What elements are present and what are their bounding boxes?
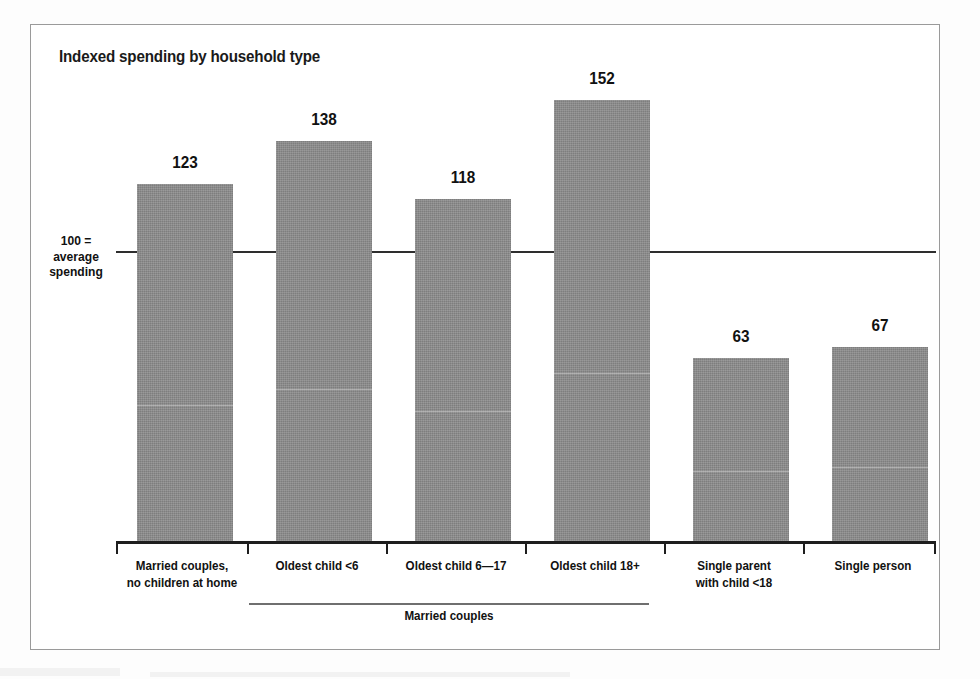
bar-value-label: 152 (559, 69, 645, 89)
bar-value-label: 138 (281, 110, 367, 130)
bar-oldest-child-18-plus (554, 100, 650, 541)
bar-married-no-children (137, 184, 233, 541)
category-label-line-1: Single parent (671, 558, 797, 575)
axis-tick (803, 541, 805, 554)
x-axis-category-label: Oldest child 18+ (532, 558, 658, 575)
scan-artifact (150, 672, 570, 677)
axis-tick (934, 541, 936, 554)
axis-tick (525, 541, 527, 554)
category-label-line-1: Oldest child <6 (254, 558, 380, 575)
bar-value-label: 67 (837, 316, 923, 336)
bar-value-label: 118 (420, 168, 506, 188)
group-bracket-label: Married couples (263, 609, 635, 623)
bar-value-label: 63 (698, 327, 784, 347)
x-axis-category-label: Oldest child 6—17 (393, 558, 519, 575)
reference-label-line-1: 100 = (40, 233, 113, 249)
plot-area: 100 = average spending 123 138 118 152 6… (31, 25, 941, 651)
bar-oldest-child-under-6 (276, 141, 372, 541)
x-axis-category-label: Married couples, no children at home (112, 558, 252, 592)
axis-tick (664, 541, 666, 554)
scanned-page: Indexed spending by household type 100 =… (0, 0, 980, 679)
category-label-line-1: Married couples, (112, 558, 252, 575)
axis-tick (116, 541, 118, 554)
category-label-line-2: with child <18 (671, 575, 797, 592)
axis-tick (386, 541, 388, 554)
bar-oldest-child-6-17 (415, 199, 511, 541)
x-axis-category-label: Oldest child <6 (254, 558, 380, 575)
category-label-line-1: Oldest child 18+ (532, 558, 658, 575)
x-axis-category-label: Single parent with child <18 (671, 558, 797, 592)
scan-artifact (0, 668, 120, 676)
category-label-line-1: Single person (810, 558, 936, 575)
bar-single-person (832, 347, 928, 541)
x-axis-category-label: Single person (810, 558, 936, 575)
reference-line-label: 100 = average spending (40, 233, 113, 280)
axis-tick (247, 541, 249, 554)
category-label-line-2: no children at home (112, 575, 252, 592)
chart-frame: Indexed spending by household type 100 =… (30, 24, 940, 650)
reference-line-100 (116, 251, 936, 253)
reference-label-line-3: spending (40, 264, 113, 280)
reference-label-line-2: average (40, 249, 113, 265)
bar-single-parent (693, 358, 789, 541)
bar-value-label: 123 (142, 153, 228, 173)
group-bracket-line (249, 603, 649, 605)
category-label-line-1: Oldest child 6—17 (393, 558, 519, 575)
